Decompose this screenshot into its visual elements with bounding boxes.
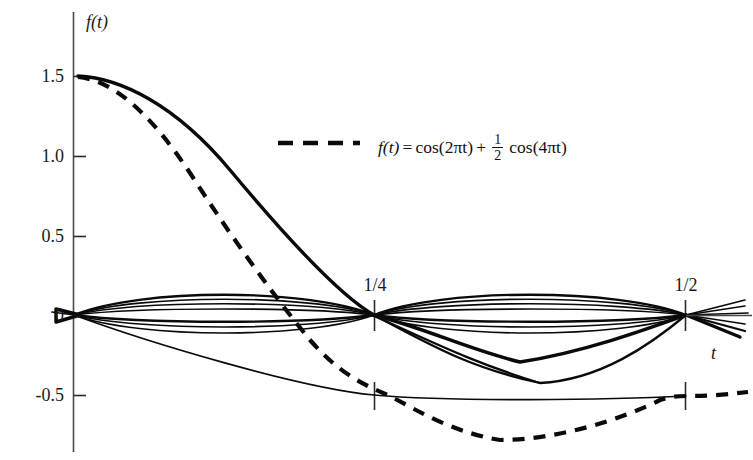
plot-canvas [0, 0, 753, 460]
upper-lobe-curves [74, 295, 686, 315]
descending-branch-after-quarter [374, 316, 540, 383]
legend-term-two: cos(4πt) [509, 137, 566, 158]
y-tick-label-1-5: 1.5 [4, 67, 64, 85]
legend-equals: = [403, 137, 413, 158]
legend-plus: + [476, 137, 486, 158]
y-tick-label-1-0: 1.0 [4, 147, 64, 165]
y-tick-label-neg-0-5: -0.5 [0, 386, 64, 404]
legend-equation: f(t) = cos(2πt) + 1 2 cos(4πt) [378, 132, 567, 163]
legend-function-name: f(t) [378, 137, 399, 158]
legend-coefficient-numerator: 1 [492, 133, 503, 149]
y-axis-label: f(t) [86, 13, 108, 31]
y-tick-label-0: 0 [4, 306, 64, 324]
main-solid-curve [78, 76, 374, 315]
legend-coefficient-half: 1 2 [492, 133, 503, 164]
x-axis-label-text: t [711, 343, 716, 363]
y-tick-label-0-5: 0.5 [4, 227, 64, 245]
legend-coefficient-denominator: 2 [492, 148, 503, 163]
fourier-series-figure: 1.5 1.0 0.5 0 -0.5 1/4 1/2 f(t) t f(t) =… [0, 0, 753, 460]
x-tick-label-half: 1/2 [656, 276, 716, 294]
y-tick-marks [74, 77, 87, 396]
right-tail-curves [686, 300, 748, 337]
x-axis-label: t [711, 344, 716, 362]
y-axis-label-text: f(t) [86, 12, 108, 32]
x-tick-marks [375, 300, 686, 410]
x-tick-label-quarter: 1/4 [345, 276, 405, 294]
legend-term-one: cos(2πt) [416, 137, 473, 158]
large-lower-lobe-first-half [74, 315, 686, 400]
